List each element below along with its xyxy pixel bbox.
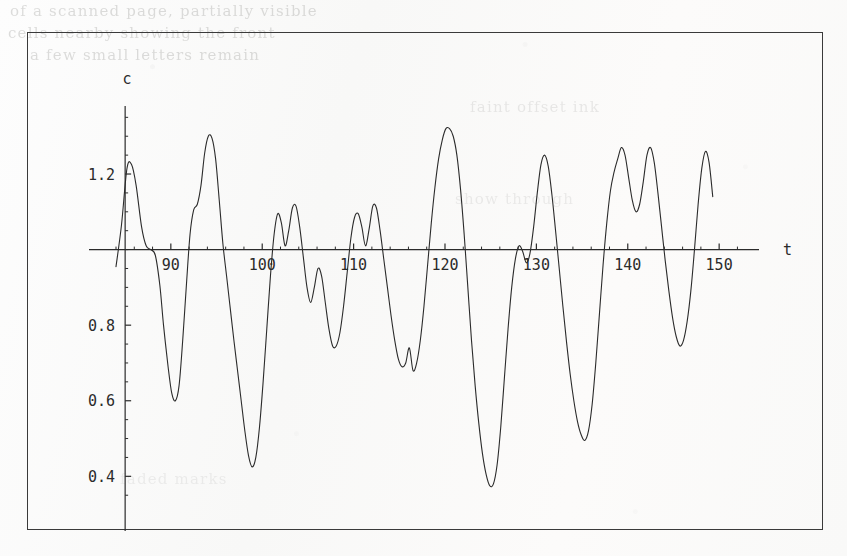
plot-frame: 901001101201301401500.40.60.81.2 t c <box>27 32 823 530</box>
chart-series-group <box>116 127 713 486</box>
x-tick-label: 90 <box>162 256 180 274</box>
y-tick-label: 0.4 <box>88 468 115 486</box>
y-axis-label: c <box>123 70 132 88</box>
x-tick-label: 140 <box>614 256 641 274</box>
chart-axes <box>89 106 759 531</box>
x-tick-label: 130 <box>523 256 550 274</box>
x-tick-label: 120 <box>431 256 458 274</box>
y-tick-label: 0.6 <box>88 392 115 410</box>
y-tick-label: 0.8 <box>88 317 115 335</box>
chart-tick-labels: 901001101201301401500.40.60.81.2 <box>88 166 733 486</box>
x-axis-label: t <box>783 241 792 259</box>
ghost-text-line-1: of a scanned page, partially visible <box>10 2 318 20</box>
x-tick-label: 110 <box>340 256 367 274</box>
timeseries-chart: 901001101201301401500.40.60.81.2 t c <box>28 33 824 531</box>
series-line <box>116 127 713 486</box>
x-tick-label: 150 <box>706 256 733 274</box>
y-tick-label: 1.2 <box>88 166 115 184</box>
